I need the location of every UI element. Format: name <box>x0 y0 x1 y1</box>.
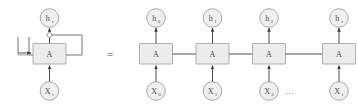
step-t-cell-label: A <box>336 50 342 59</box>
sequence-ellipsis: ... <box>286 87 295 96</box>
folded-rnn-group: A h t X t <box>18 9 82 101</box>
unrolled-step-0: A h 0 X 0 <box>140 9 173 101</box>
step-1-output-label: h <box>209 14 213 23</box>
step-0-cell-label: A <box>153 50 159 59</box>
step-0-input-label: X <box>151 87 157 96</box>
step-0-output-label: h <box>152 14 156 23</box>
unrolled-step-1: A h 1 X 1 <box>196 9 229 101</box>
folded-cell-label: A <box>47 50 53 59</box>
unrolled-step-t: A h t X t <box>323 9 356 101</box>
step-t-output-label: h <box>335 14 339 23</box>
step-2-cell-label: A <box>266 50 272 59</box>
loop-junction-node <box>47 33 52 38</box>
folded-output-label: h <box>46 14 50 23</box>
rnn-diagram-canvas: A h t X t = A h 0 X 0 <box>0 0 358 112</box>
step-1-input-label: X <box>208 87 214 96</box>
step-2-input-label: X <box>264 87 270 96</box>
equals-sign: = <box>107 48 113 60</box>
unrolled-step-2: A h 2 X 2 <box>253 9 286 101</box>
step-1-cell-label: A <box>210 50 216 59</box>
folded-input-label: X <box>45 87 51 96</box>
step-t-input-label: X <box>334 87 340 96</box>
step-2-output-label: h <box>265 14 269 23</box>
